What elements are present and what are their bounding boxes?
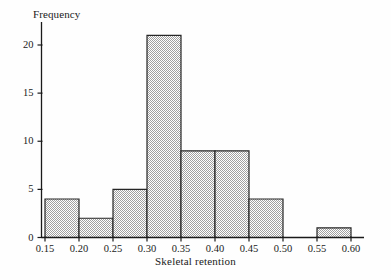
histogram-bar (317, 228, 351, 238)
bars-group (45, 35, 351, 237)
y-tick-label: 10 (10, 135, 34, 146)
histogram-bar (249, 199, 283, 238)
histogram-bar (113, 189, 147, 237)
histogram-bar (45, 199, 79, 238)
y-tick-label: 5 (10, 183, 34, 194)
y-tick-label: 20 (10, 39, 34, 50)
histogram-chart: Frequency Skeletal retention 05101520 0.… (0, 0, 391, 280)
x-axis-title: Skeletal retention (0, 255, 391, 268)
histogram-bar (79, 218, 113, 237)
histogram-bar (147, 35, 181, 237)
y-tick-label: 15 (10, 87, 34, 98)
x-tick-label: 0.60 (329, 243, 373, 254)
histogram-bar (215, 151, 249, 238)
histogram-bar (181, 151, 215, 238)
y-axis-title: Frequency (33, 8, 80, 21)
y-tick-label: 0 (10, 232, 34, 243)
plot-area (0, 0, 391, 280)
